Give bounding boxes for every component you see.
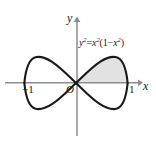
x-axis-label: x — [143, 80, 148, 92]
origin-node-dot — [74, 81, 77, 84]
curve-right-lower-branch — [76, 83, 128, 109]
plot-canvas — [0, 0, 156, 141]
x-tick-label-negative-one: −1 — [22, 84, 34, 95]
curve-left-upper-branch — [24, 57, 76, 83]
math-figure: y x −1 O 1 y2=x2(1−x2) — [0, 0, 156, 141]
y-axis-label: y — [67, 12, 72, 24]
equation-close-paren: ) — [121, 37, 124, 48]
y-axis-arrowhead — [74, 17, 81, 23]
x-tick-label-one: 1 — [129, 84, 135, 95]
origin-label: O — [66, 84, 74, 95]
curve-equation-label: y2=x2(1−x2) — [79, 38, 124, 48]
